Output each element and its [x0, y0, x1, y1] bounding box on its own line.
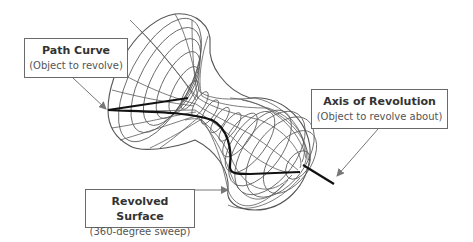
callout-axis-of-revolution: Axis of Revolution (Object to revolve ab… [311, 89, 448, 129]
callout-path-curve: Path Curve (Object to revolve) [24, 38, 128, 78]
leader-axis [337, 129, 378, 176]
callout-subtitle: (Object to revolve about) [312, 109, 447, 124]
callout-title: Path Curve [25, 43, 127, 58]
wireframe-mesh [102, 6, 328, 210]
callout-revolved-surface: Revolved Surface (360-degree sweep) [85, 189, 195, 228]
leader-path-curve [73, 78, 106, 109]
callout-subtitle: (360-degree sweep) [86, 224, 194, 239]
axis-of-revolution-line [303, 165, 334, 184]
diagram-canvas: Path Curve (Object to revolve) Axis of R… [0, 0, 473, 242]
callout-subtitle: (Object to revolve) [25, 58, 127, 73]
callout-title: Axis of Revolution [312, 94, 447, 109]
callout-title: Revolved Surface [86, 194, 194, 224]
